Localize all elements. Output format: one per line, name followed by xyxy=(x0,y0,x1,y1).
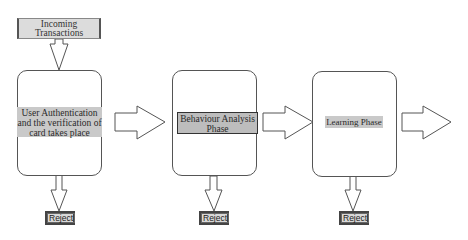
stage-learning-label: Learning Phase xyxy=(325,116,383,128)
incoming-transactions-node: Incoming Transactions xyxy=(17,18,101,39)
down-arrow-icon xyxy=(345,176,361,211)
reject-label: Reject xyxy=(47,213,75,223)
flowchart-canvas: Incoming Transactions User Authenticatio… xyxy=(0,0,468,240)
right-arrow-icon xyxy=(263,106,313,139)
right-arrow-icon xyxy=(402,106,451,139)
down-arrow-icon xyxy=(50,39,68,70)
down-arrow-icon xyxy=(205,176,222,211)
stage-auth-label: User Authentication and the verification… xyxy=(17,107,102,137)
reject-node-behaviour: Reject xyxy=(199,211,229,225)
reject-node-learning: Reject xyxy=(339,211,369,225)
stage-behaviour-label: Behaviour Analysis Phase xyxy=(177,112,258,134)
down-arrow-icon xyxy=(51,175,67,211)
reject-node-auth: Reject xyxy=(45,211,75,225)
reject-label: Reject xyxy=(201,213,229,223)
right-arrow-icon xyxy=(115,106,165,139)
reject-label: Reject xyxy=(341,213,369,223)
